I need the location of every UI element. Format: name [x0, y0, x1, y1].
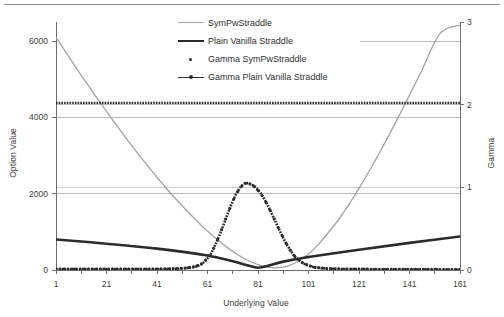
- legend-key-line-icon: [176, 17, 206, 29]
- y-tick-label-right: 1: [467, 182, 504, 192]
- series-marker: [297, 258, 300, 261]
- series-marker: [454, 268, 457, 271]
- y-tick-label-left: 6000: [8, 36, 48, 46]
- series-marker: [277, 226, 280, 229]
- series-marker: [446, 268, 449, 271]
- series-marker: [269, 209, 272, 212]
- series-marker: [256, 189, 259, 192]
- series-marker: [192, 265, 195, 268]
- series-marker: [293, 254, 296, 257]
- series-marker: [172, 267, 175, 270]
- legend-label: Plain Vanilla Straddle: [206, 36, 293, 46]
- x-axis-title: Underlying Value: [176, 298, 336, 308]
- series-marker: [329, 267, 332, 270]
- series-marker: [281, 234, 284, 237]
- series-marker: [333, 267, 336, 270]
- series-marker: [337, 267, 340, 270]
- x-tick-label: 21: [87, 279, 127, 289]
- series-marker: [220, 228, 223, 231]
- legend-label: SymPwStraddle: [206, 18, 272, 28]
- series-marker: [176, 267, 179, 270]
- y-tick-label-right: 0: [467, 265, 504, 275]
- series-line-1: [56, 236, 460, 267]
- series-marker: [252, 185, 255, 188]
- series-marker: [260, 194, 263, 197]
- series-marker: [164, 267, 167, 270]
- series-marker: [240, 185, 243, 188]
- x-tick-label: 101: [289, 279, 329, 289]
- series-marker: [216, 238, 219, 241]
- chart-legend: SymPwStraddlePlain Vanilla StraddleGamma…: [176, 14, 391, 86]
- series-marker: [180, 267, 183, 270]
- series-marker: [248, 182, 251, 185]
- series-marker: [212, 247, 215, 250]
- series-marker: [438, 268, 441, 271]
- x-tick-label: 41: [137, 279, 177, 289]
- series-marker: [313, 266, 316, 269]
- y-tick-label-right: 2: [467, 100, 504, 110]
- series-marker: [228, 207, 231, 210]
- series-marker: [204, 259, 207, 262]
- series-marker: [236, 190, 239, 193]
- series-marker: [184, 266, 187, 269]
- x-tick-label: 61: [188, 279, 228, 289]
- series-marker: [188, 266, 191, 269]
- x-tick-label: 141: [390, 279, 430, 289]
- chart-figure: Option Value Gamma Underlying Value 0200…: [0, 0, 504, 317]
- series-marker: [285, 242, 288, 245]
- y-tick-label-left: 2000: [8, 189, 48, 199]
- series-marker: [159, 267, 162, 270]
- legend-key-thick-line-icon: [176, 35, 206, 47]
- series-marker: [450, 268, 453, 271]
- series-marker: [208, 254, 211, 257]
- series-marker: [325, 267, 328, 270]
- series-marker: [265, 201, 268, 204]
- x-tick-label: 1: [36, 279, 76, 289]
- series-marker: [168, 267, 171, 270]
- series-line-3: [56, 183, 460, 270]
- x-tick-label: 121: [339, 279, 379, 289]
- legend-key-dash-dot-icon: [176, 71, 206, 83]
- series-marker: [309, 264, 312, 267]
- legend-item: Plain Vanilla Straddle: [176, 32, 391, 50]
- legend-label: Gamma SymPwStraddle: [206, 54, 307, 64]
- legend-label: Gamma Plain Vanilla Straddle: [206, 72, 327, 82]
- y-tick-label-left: 4000: [8, 112, 48, 122]
- series-marker: [273, 217, 276, 220]
- series-marker: [321, 267, 324, 270]
- series-marker: [289, 249, 292, 252]
- series-marker: [301, 261, 304, 264]
- legend-item: Gamma Plain Vanilla Straddle: [176, 68, 391, 86]
- series-marker: [442, 268, 445, 271]
- y-tick-label-left: 0: [8, 265, 48, 275]
- y-tick-label-right: 3: [467, 17, 504, 27]
- series-marker: [196, 264, 199, 267]
- y-axis-left-title: Option Value: [8, 118, 18, 188]
- series-marker: [224, 218, 227, 221]
- series-marker: [317, 266, 320, 269]
- legend-item: SymPwStraddle: [176, 14, 391, 32]
- y-axis-right-title: Gamma: [486, 118, 496, 188]
- x-tick-label: 81: [238, 279, 278, 289]
- series-marker: [305, 263, 308, 266]
- legend-key-dot-icon: [176, 53, 206, 65]
- series-marker: [232, 198, 235, 201]
- series-marker: [244, 182, 247, 185]
- series-marker: [200, 262, 203, 265]
- legend-item: Gamma SymPwStraddle: [176, 50, 391, 68]
- x-tick-label: 161: [440, 279, 480, 289]
